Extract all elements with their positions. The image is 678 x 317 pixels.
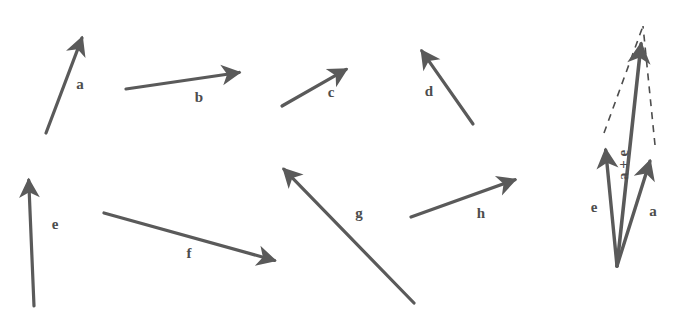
vector-diagram-figure: a b c d e f g h e a a + e — [0, 0, 678, 317]
sum-resultant-label: a + e — [615, 150, 631, 181]
vector-label-a: a — [76, 76, 84, 92]
vector-label-e: e — [52, 216, 59, 232]
figure-background — [0, 0, 678, 317]
vector-label-d: d — [425, 83, 434, 99]
vector-label-b: b — [195, 89, 203, 105]
sum-component-label-a: a — [649, 203, 657, 219]
sum-component-label-e: e — [591, 199, 598, 215]
vector-label-c: c — [328, 84, 335, 100]
vector-label-g: g — [355, 205, 363, 221]
vector-label-h: h — [477, 205, 486, 221]
